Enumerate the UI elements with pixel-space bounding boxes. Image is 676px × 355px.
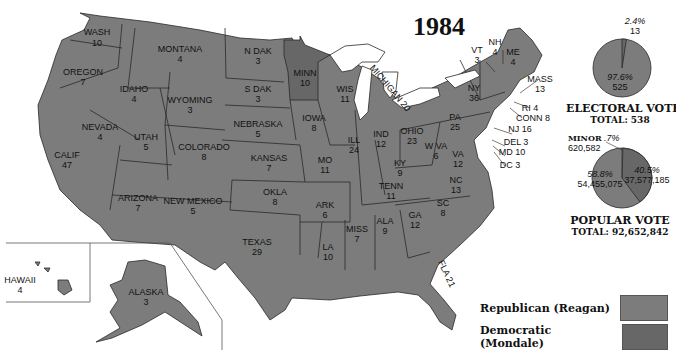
svg-text:7: 7 bbox=[354, 234, 359, 244]
popular-caption: POPULAR VOTE bbox=[566, 214, 674, 227]
svg-text:MASS: MASS bbox=[527, 74, 553, 84]
svg-text:KANSAS: KANSAS bbox=[251, 153, 288, 163]
svg-text:MO: MO bbox=[318, 155, 333, 165]
svg-text:TENN: TENN bbox=[379, 181, 404, 191]
svg-text:DEL 3: DEL 3 bbox=[504, 137, 529, 147]
svg-text:KY: KY bbox=[394, 158, 406, 168]
svg-text:HAWAII: HAWAII bbox=[4, 275, 35, 285]
svg-text:WIS: WIS bbox=[337, 84, 354, 94]
svg-text:PA: PA bbox=[449, 112, 460, 122]
svg-text:NEW MEXICO: NEW MEXICO bbox=[163, 196, 222, 206]
svg-text:DC 3: DC 3 bbox=[500, 160, 521, 170]
svg-text:12: 12 bbox=[410, 220, 420, 230]
republican-swatch bbox=[620, 295, 668, 321]
svg-text:S DAK: S DAK bbox=[244, 84, 271, 94]
label-wash: WASH bbox=[84, 27, 111, 37]
svg-text:24: 24 bbox=[349, 145, 359, 155]
svg-text:13: 13 bbox=[451, 185, 461, 195]
svg-text:NC: NC bbox=[450, 175, 463, 185]
svg-text:23: 23 bbox=[407, 136, 417, 146]
map-title: 1984 bbox=[413, 12, 465, 42]
svg-text:UTAH: UTAH bbox=[134, 132, 158, 142]
svg-text:4: 4 bbox=[17, 285, 22, 295]
svg-text:36: 36 bbox=[469, 93, 479, 103]
svg-text:IDAHO: IDAHO bbox=[120, 84, 149, 94]
svg-text:5: 5 bbox=[190, 206, 195, 216]
svg-text:SC: SC bbox=[437, 198, 450, 208]
svg-text:FLA 21: FLA 21 bbox=[436, 259, 457, 289]
svg-text:ME: ME bbox=[506, 47, 520, 57]
svg-text:OHIO: OHIO bbox=[400, 126, 423, 136]
svg-text:4: 4 bbox=[492, 47, 497, 57]
svg-text:VT: VT bbox=[471, 45, 483, 55]
legend-democratic: Democratic (Mondale) bbox=[480, 324, 668, 350]
svg-text:ALA: ALA bbox=[376, 216, 393, 226]
svg-text:CALIF: CALIF bbox=[54, 150, 80, 160]
electoral-total: TOTAL: 538 bbox=[566, 115, 674, 125]
popular-minor-label: MINOR .7%620,582 bbox=[568, 133, 628, 153]
svg-text:8: 8 bbox=[311, 123, 316, 133]
svg-text:VA: VA bbox=[452, 149, 463, 159]
svg-text:MD 10: MD 10 bbox=[499, 147, 526, 157]
svg-text:N DAK: N DAK bbox=[244, 46, 272, 56]
svg-text:COLORADO: COLORADO bbox=[178, 142, 230, 152]
popular-total: TOTAL: 92,652,842 bbox=[566, 227, 674, 237]
svg-text:29: 29 bbox=[252, 247, 262, 257]
svg-text:IND: IND bbox=[373, 129, 389, 139]
svg-text:CONN 8: CONN 8 bbox=[516, 113, 550, 123]
popular-dem-label: 40.5%37,577,185 bbox=[622, 165, 672, 185]
legend-republican: Republican (Reagan) bbox=[480, 295, 668, 321]
svg-text:MONTANA: MONTANA bbox=[158, 44, 202, 54]
svg-text:4: 4 bbox=[97, 132, 102, 142]
svg-text:11: 11 bbox=[340, 94, 349, 104]
svg-text:8: 8 bbox=[440, 208, 445, 218]
svg-text:3: 3 bbox=[143, 297, 148, 307]
svg-text:3: 3 bbox=[255, 56, 260, 66]
svg-text:10: 10 bbox=[92, 38, 102, 48]
svg-text:LA: LA bbox=[322, 242, 333, 252]
svg-text:5: 5 bbox=[255, 129, 260, 139]
svg-text:6: 6 bbox=[433, 151, 438, 161]
svg-text:W VA: W VA bbox=[425, 141, 447, 151]
svg-text:WYOMING: WYOMING bbox=[168, 95, 213, 105]
svg-text:4: 4 bbox=[510, 57, 515, 67]
svg-text:4: 4 bbox=[131, 94, 136, 104]
svg-text:12: 12 bbox=[376, 139, 386, 149]
svg-text:ARK: ARK bbox=[316, 200, 335, 210]
democratic-swatch bbox=[622, 324, 668, 350]
svg-text:11: 11 bbox=[320, 165, 329, 175]
svg-text:3: 3 bbox=[187, 105, 192, 115]
svg-text:NY: NY bbox=[468, 83, 481, 93]
svg-text:7: 7 bbox=[80, 77, 85, 87]
svg-text:NJ 16: NJ 16 bbox=[508, 124, 532, 134]
svg-text:OREGON: OREGON bbox=[63, 67, 103, 77]
svg-text:9: 9 bbox=[397, 168, 402, 178]
svg-text:7: 7 bbox=[266, 163, 271, 173]
svg-text:3: 3 bbox=[474, 55, 479, 65]
svg-text:9: 9 bbox=[382, 226, 387, 236]
svg-text:5: 5 bbox=[143, 142, 148, 152]
svg-text:8: 8 bbox=[272, 197, 277, 207]
svg-text:8: 8 bbox=[201, 152, 206, 162]
svg-text:10: 10 bbox=[300, 78, 310, 88]
svg-text:ALASKA: ALASKA bbox=[128, 287, 163, 297]
svg-text:6: 6 bbox=[322, 210, 327, 220]
svg-text:RI 4: RI 4 bbox=[522, 103, 539, 113]
svg-text:MISS: MISS bbox=[346, 224, 368, 234]
svg-text:ARIZONA: ARIZONA bbox=[118, 193, 158, 203]
svg-text:MINN: MINN bbox=[294, 68, 317, 78]
svg-text:4: 4 bbox=[177, 54, 182, 64]
svg-text:25: 25 bbox=[450, 122, 460, 132]
svg-text:10: 10 bbox=[323, 252, 333, 262]
svg-text:3: 3 bbox=[255, 94, 260, 104]
svg-text:NH: NH bbox=[489, 37, 502, 47]
svg-text:TEXAS: TEXAS bbox=[242, 237, 272, 247]
svg-text:OKLA: OKLA bbox=[263, 187, 287, 197]
svg-text:NEVADA: NEVADA bbox=[82, 122, 118, 132]
state-hawaii[interactable] bbox=[35, 262, 72, 295]
state-alaska[interactable] bbox=[96, 260, 202, 342]
popular-rep-label: 58.8%54,455,075 bbox=[575, 169, 625, 189]
electoral-rep-label: 97.6%525 bbox=[600, 72, 640, 92]
svg-text:12: 12 bbox=[453, 159, 463, 169]
electoral-caption: ELECTORAL VOTE bbox=[566, 102, 674, 115]
